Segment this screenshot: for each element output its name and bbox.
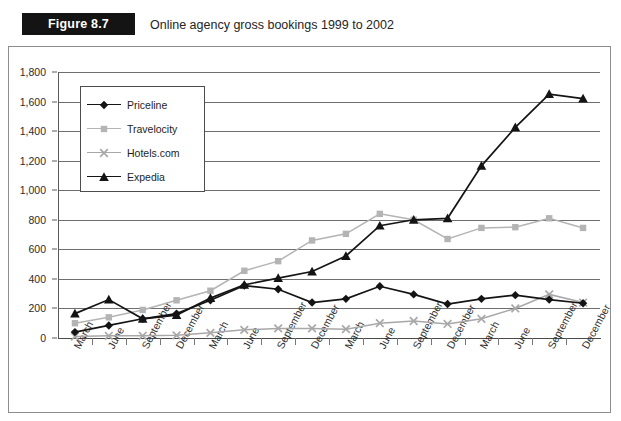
- legend-item-priceline[interactable]: Priceline: [81, 93, 204, 117]
- data-point-square: [444, 236, 450, 242]
- series-line: [75, 214, 583, 323]
- data-point-square: [101, 126, 107, 132]
- data-point-square: [309, 237, 315, 243]
- y-tick-mark: [52, 190, 57, 191]
- data-point-diamond: [511, 291, 519, 299]
- y-tick-mark: [52, 219, 57, 220]
- data-point-square: [377, 211, 383, 217]
- data-point-diamond: [71, 328, 79, 336]
- x-tick-mark: [261, 338, 262, 345]
- x-tick-mark: [465, 338, 466, 345]
- data-point-square: [580, 225, 586, 231]
- data-point-diamond: [443, 300, 451, 308]
- y-axis-tick-label: 1,400: [0, 125, 46, 137]
- x-tick-mark: [227, 338, 228, 345]
- data-point-diamond: [105, 321, 113, 329]
- legend-marker-glyph: [81, 117, 127, 141]
- data-point-triangle: [544, 89, 554, 98]
- y-tick-mark: [52, 278, 57, 279]
- y-axis-tick-label: 400: [0, 273, 46, 285]
- y-axis-tick-label: 1,000: [0, 184, 46, 196]
- legend-label: Expedia: [127, 171, 165, 183]
- data-point-cross: [512, 305, 520, 313]
- x-tick-mark: [92, 338, 93, 345]
- y-tick-mark: [52, 338, 57, 339]
- x-tick-mark: [566, 338, 567, 345]
- y-tick-mark: [52, 72, 57, 73]
- y-axis-tick-label: 1,200: [0, 155, 46, 167]
- x-tick-mark: [363, 338, 364, 345]
- x-tick-mark: [126, 338, 127, 345]
- data-point-triangle: [99, 172, 109, 181]
- x-tick-mark: [532, 338, 533, 345]
- legend-item-hotels-com[interactable]: Hotels.com: [81, 141, 204, 165]
- data-point-square: [546, 215, 552, 221]
- legend-marker-glyph: [81, 93, 127, 117]
- data-point-diamond: [308, 298, 316, 306]
- data-point-square: [207, 288, 213, 294]
- data-point-diamond: [409, 290, 417, 298]
- legend-item-travelocity[interactable]: Travelocity: [81, 117, 204, 141]
- legend-item-expedia[interactable]: Expedia: [81, 165, 204, 189]
- figure-root: Figure 8.7 Online agency gross bookings …: [0, 0, 621, 421]
- data-point-square: [512, 224, 518, 230]
- legend-label: Priceline: [127, 99, 167, 111]
- data-point-diamond: [376, 282, 384, 290]
- y-tick-mark: [52, 308, 57, 309]
- data-point-square: [173, 297, 179, 303]
- y-axis-tick-label: 1,600: [0, 96, 46, 108]
- series-hotels-com: [71, 291, 587, 341]
- legend-marker-diamond-icon: [81, 93, 127, 117]
- figure-header: Figure 8.7 Online agency gross bookings …: [0, 0, 621, 46]
- data-point-square: [241, 268, 247, 274]
- x-tick-mark: [160, 338, 161, 345]
- y-tick-mark: [52, 101, 57, 102]
- legend-label: Travelocity: [127, 123, 177, 135]
- legend-marker-triangle-icon: [81, 165, 127, 189]
- data-point-cross: [100, 149, 108, 157]
- data-point-diamond: [342, 295, 350, 303]
- series-travelocity: [72, 211, 587, 327]
- series-line: [75, 286, 583, 333]
- legend-marker-glyph: [81, 141, 127, 165]
- data-point-square: [139, 307, 145, 313]
- figure-caption: Online agency gross bookings 1999 to 200…: [150, 18, 394, 32]
- y-axis-tick-label: 200: [0, 302, 46, 314]
- legend-label: Hotels.com: [127, 147, 180, 159]
- x-tick-mark: [397, 338, 398, 345]
- data-point-square: [72, 320, 78, 326]
- legend-marker-cross-icon: [81, 141, 127, 165]
- x-tick-mark: [329, 338, 330, 345]
- legend-marker-glyph: [81, 165, 127, 189]
- data-point-triangle: [104, 295, 114, 304]
- figure-number-badge: Figure 8.7: [22, 13, 135, 35]
- data-point-diamond: [100, 101, 108, 109]
- chart-legend: PricelineTravelocityHotels.comExpedia: [80, 86, 205, 192]
- y-tick-mark: [52, 160, 57, 161]
- y-axis-tick-label: 600: [0, 243, 46, 255]
- data-point-square: [106, 314, 112, 320]
- x-tick-mark: [498, 338, 499, 345]
- legend-marker-square-icon: [81, 117, 127, 141]
- x-tick-mark: [431, 338, 432, 345]
- data-point-square: [275, 258, 281, 264]
- y-tick-mark: [52, 249, 57, 250]
- data-point-square: [343, 231, 349, 237]
- x-tick-mark: [194, 338, 195, 345]
- data-point-diamond: [477, 295, 485, 303]
- y-axis-tick-label: 800: [0, 214, 46, 226]
- data-point-triangle: [70, 309, 80, 318]
- y-axis-tick-label: 1,800: [0, 66, 46, 78]
- data-point-diamond: [274, 285, 282, 293]
- x-tick-mark: [295, 338, 296, 345]
- data-point-square: [478, 225, 484, 231]
- data-point-triangle: [307, 267, 317, 276]
- y-tick-mark: [52, 131, 57, 132]
- y-axis-tick-label: 0: [0, 332, 46, 344]
